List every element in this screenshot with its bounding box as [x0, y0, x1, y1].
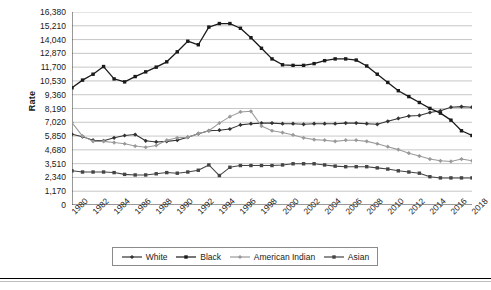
data-point-marker	[397, 89, 400, 92]
data-point-marker	[186, 170, 189, 173]
data-point-marker	[386, 119, 390, 123]
data-point-marker	[123, 173, 126, 176]
data-point-marker	[417, 154, 421, 158]
legend-label: Asian	[348, 252, 369, 262]
data-point-marker	[428, 110, 432, 114]
data-point-marker	[438, 159, 442, 163]
data-point-marker	[130, 254, 134, 258]
data-point-marker	[133, 173, 136, 176]
data-point-marker	[197, 169, 200, 172]
data-point-marker	[355, 165, 358, 168]
data-point-marker	[270, 129, 274, 133]
legend-swatch-icon	[121, 252, 143, 262]
data-point-marker	[386, 145, 390, 149]
y-axis-tick: 0	[61, 201, 66, 210]
data-point-marker	[239, 164, 242, 167]
y-axis-tick-labels: 01,1702,3403,5104,6805,8507,0208,1909,36…	[0, 0, 72, 205]
data-point-marker	[186, 40, 189, 43]
data-point-marker	[154, 143, 158, 147]
y-axis-tick: 1,170	[45, 187, 66, 196]
data-point-marker	[354, 121, 358, 125]
data-point-marker	[239, 27, 242, 30]
data-point-marker	[449, 118, 452, 121]
data-point-marker	[323, 59, 326, 62]
chart-svg	[72, 12, 472, 205]
data-point-marker	[270, 164, 273, 167]
data-point-marker	[375, 142, 379, 146]
data-point-marker	[417, 113, 421, 117]
legend-item-american-indian[interactable]: American Indian	[229, 252, 315, 262]
data-point-marker	[102, 65, 105, 68]
data-point-marker	[344, 121, 348, 125]
data-point-marker	[228, 22, 231, 25]
legend-item-black[interactable]: Black	[175, 252, 221, 262]
y-axis-tick: 3,510	[45, 159, 66, 168]
data-point-marker	[176, 171, 179, 174]
data-point-marker	[133, 75, 136, 78]
data-point-marker	[144, 173, 147, 176]
data-point-marker	[470, 176, 472, 179]
data-point-marker	[270, 57, 273, 60]
data-point-marker	[144, 70, 147, 73]
legend-swatch-icon	[175, 252, 197, 262]
chart-legend: WhiteBlackAmerican IndianAsian	[112, 247, 378, 266]
data-point-marker	[396, 148, 400, 152]
data-point-marker	[365, 165, 368, 168]
data-point-marker	[312, 62, 315, 65]
legend-label: White	[146, 252, 168, 262]
data-point-marker	[355, 58, 358, 61]
data-point-marker	[428, 157, 432, 161]
data-point-marker	[123, 80, 126, 83]
data-point-marker	[155, 65, 158, 68]
data-point-marker	[218, 174, 221, 177]
data-point-marker	[249, 36, 252, 39]
data-point-marker	[312, 138, 316, 142]
data-point-marker	[238, 110, 242, 114]
data-point-marker	[81, 78, 84, 81]
data-point-marker	[81, 170, 84, 173]
data-point-marker	[207, 25, 210, 28]
data-point-marker	[460, 176, 463, 179]
y-axis-tick: 11,700	[41, 63, 66, 72]
data-point-marker	[323, 138, 327, 142]
data-point-marker	[217, 128, 221, 132]
footer-divider-dark	[0, 278, 491, 279]
data-point-marker	[460, 129, 463, 132]
data-point-marker	[323, 163, 326, 166]
data-point-marker	[72, 86, 74, 89]
legend-item-asian[interactable]: Asian	[323, 252, 369, 262]
y-axis-tick: 16,380	[40, 8, 66, 17]
data-point-marker	[332, 255, 335, 258]
legend-item-white[interactable]: White	[121, 252, 168, 262]
data-point-marker	[344, 165, 347, 168]
data-point-marker	[270, 121, 274, 125]
data-point-marker	[354, 138, 358, 142]
data-point-marker	[376, 73, 379, 76]
data-point-marker	[228, 127, 232, 131]
data-point-marker	[407, 151, 411, 155]
series-asian	[72, 162, 472, 180]
data-point-marker	[144, 145, 148, 149]
data-point-marker	[123, 142, 127, 146]
data-point-marker	[197, 43, 200, 46]
data-point-marker	[207, 163, 210, 166]
data-point-marker	[196, 132, 200, 136]
data-point-marker	[260, 47, 263, 50]
chart-figure: Rate 01,1702,3403,5104,6805,8507,0208,19…	[0, 0, 491, 290]
data-point-marker	[407, 170, 410, 173]
data-point-marker	[428, 175, 431, 178]
data-point-marker	[238, 123, 242, 127]
legend-swatch-icon	[229, 252, 251, 262]
y-axis-tick: 15,210	[40, 22, 66, 31]
data-point-marker	[280, 130, 284, 134]
data-point-marker	[333, 57, 336, 60]
y-axis-tick: 10,530	[40, 77, 66, 86]
series-line	[72, 24, 472, 136]
data-point-marker	[302, 64, 305, 67]
data-point-marker	[165, 171, 168, 174]
data-point-marker	[133, 144, 137, 148]
data-point-marker	[91, 73, 94, 76]
data-point-marker	[281, 163, 284, 166]
series-white	[72, 105, 472, 145]
data-point-marker	[112, 140, 116, 144]
